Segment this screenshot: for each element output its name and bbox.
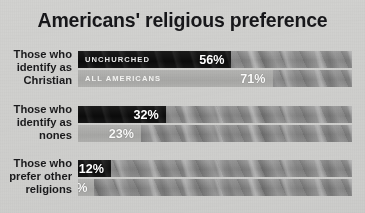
bar-group-label-line: Those who [4, 103, 72, 116]
bar-track-wrap: 32% 23% [78, 106, 352, 142]
bar-track: ALL AMERICANS 71% [78, 70, 352, 87]
bar-group-label-line: identify as [4, 61, 72, 74]
bar-value-label: 23% [109, 127, 134, 141]
bar-unchurched[interactable]: 32% [78, 106, 166, 123]
bar-all-americans[interactable]: 6% [78, 179, 94, 196]
track-texture [78, 179, 352, 196]
chart-title: Americans' religious preference [0, 9, 365, 32]
bar-group-label-line: Christian [4, 74, 72, 87]
bar-group-label-line: prefer other [4, 170, 72, 183]
bar-track: UNCHURCHED 56% [78, 51, 352, 68]
bar-group-label: Those who identify as Christian [4, 48, 72, 86]
bar-group-label-line: religions [4, 183, 72, 196]
bar-group-label: Those who identify as nones [4, 103, 72, 141]
bar-track: 23% [78, 125, 352, 142]
series-name-label: ALL AMERICANS [85, 74, 161, 83]
bar-track: 12% [78, 160, 352, 177]
bar-track: 32% [78, 106, 352, 123]
bar-group-label: Those who prefer other religions [4, 157, 72, 195]
bar-track: 6% [78, 179, 352, 196]
bar-value-label: 6% [78, 181, 87, 195]
bar-value-label: 12% [79, 162, 104, 176]
bar-value-label: 56% [199, 53, 224, 67]
bar-unchurched[interactable]: UNCHURCHED 56% [78, 51, 231, 68]
bar-group-label-line: Those who [4, 48, 72, 61]
bar-track-wrap: 12% 6% [78, 160, 352, 196]
bar-unchurched[interactable]: 12% [78, 160, 111, 177]
bar-group-label-line: Those who [4, 157, 72, 170]
bar-all-americans[interactable]: 23% [78, 125, 141, 142]
bar-group-label-line: nones [4, 129, 72, 142]
bar-all-americans[interactable]: ALL AMERICANS 71% [78, 70, 273, 87]
track-texture [78, 160, 352, 177]
bar-group-label-line: identify as [4, 116, 72, 129]
bar-value-label: 32% [133, 108, 158, 122]
bar-track-wrap: UNCHURCHED 56% ALL AMERICANS 71% [78, 51, 352, 87]
bar-value-label: 71% [240, 72, 265, 86]
series-name-label: UNCHURCHED [85, 55, 150, 64]
religious-preference-chart: Americans' religious preference Those wh… [0, 0, 365, 213]
